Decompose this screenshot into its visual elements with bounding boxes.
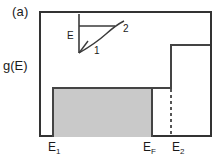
panel-label: (a) [12,4,29,19]
inset-curve-2-label: 2 [123,23,129,34]
inset-curve-1 [79,41,88,53]
x-tick-sub-e1: 1 [56,147,60,156]
y-axis-label: g(E) [3,58,28,73]
step-riser-at-e2 [170,44,172,89]
occupied-states-shaded-region [52,87,153,137]
x-tick-label-ef: EF [143,140,156,154]
e2-dashed-guide-line [170,89,172,137]
inset-axis-label-E: E [67,30,74,41]
inset-curve-1-label: 1 [94,45,100,56]
x-tick-base-e2: E [172,140,180,154]
x-tick-base-ef: E [143,140,151,154]
density-of-states-figure: (a) g(E) E 1 2 E1 EF E2 [0,0,223,162]
lower-plateau-segment [153,87,171,89]
inset-svg [66,13,136,61]
x-tick-label-e1: E1 [48,140,60,154]
x-tick-sub-e2: 2 [180,147,184,156]
inset-dispersion-diagram: E 1 2 [66,13,136,61]
x-tick-sub-ef: F [151,147,156,156]
x-tick-base-e1: E [48,140,56,154]
x-tick-label-e2: E2 [172,140,184,154]
upper-plateau-segment [170,44,210,46]
